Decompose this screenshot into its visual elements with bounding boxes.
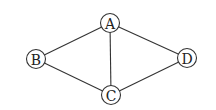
node-d: D — [178, 49, 197, 68]
node-a: A — [101, 14, 120, 33]
edge-a-d — [110, 23, 187, 58]
node-label: C — [106, 88, 117, 104]
node-c: C — [102, 86, 121, 105]
edge-a-c — [110, 23, 111, 95]
nodes-layer: ABCD — [27, 14, 197, 105]
node-label: A — [104, 16, 116, 32]
edge-a-b — [36, 23, 110, 59]
edges-layer — [36, 23, 187, 95]
edge-b-c — [36, 59, 111, 95]
node-b: B — [27, 50, 46, 69]
node-label: D — [181, 51, 192, 67]
node-label: B — [31, 52, 41, 68]
graph-diagram: ABCD — [0, 0, 216, 110]
edge-c-d — [111, 58, 187, 95]
